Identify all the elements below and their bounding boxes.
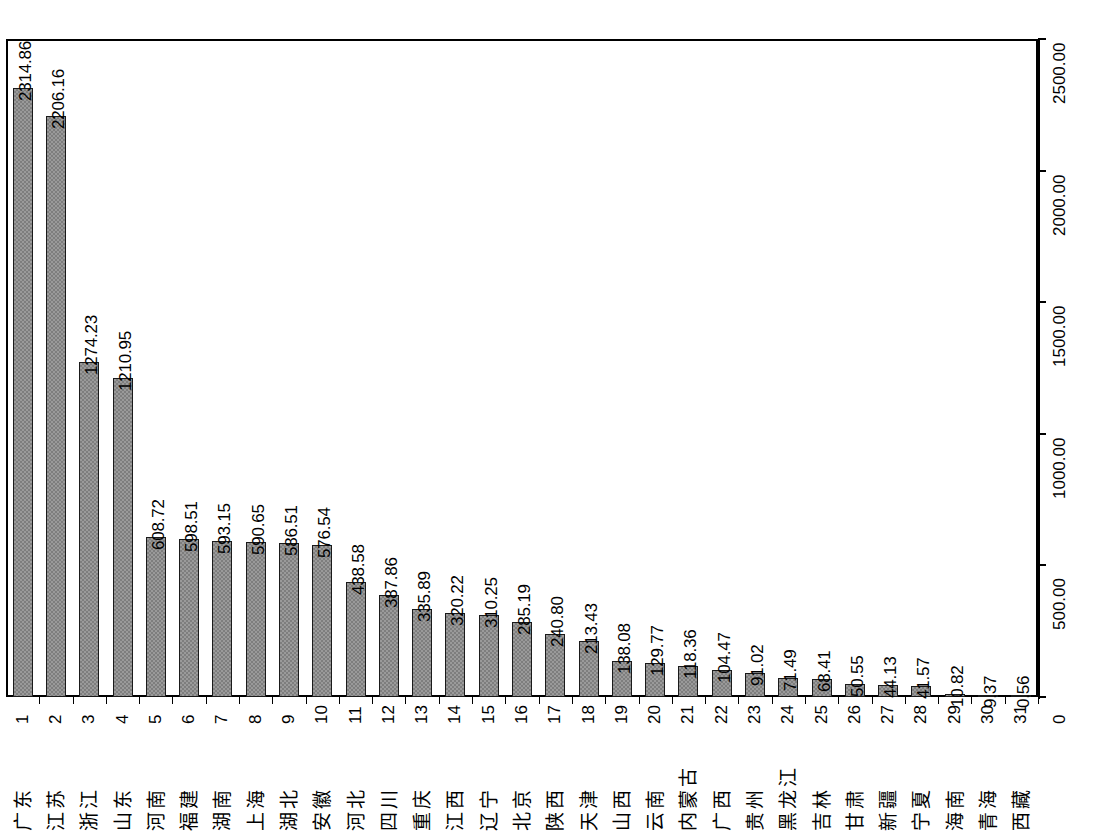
category-index-label: 3 (80, 715, 97, 724)
bar-value-label: 586.51 (283, 505, 300, 556)
bar-value-label: 213.43 (583, 603, 600, 654)
category-name-label: 西藏 (1012, 787, 1031, 831)
category-index-label: 25 (813, 705, 830, 724)
category-tick (971, 697, 972, 704)
category-tick (39, 697, 40, 704)
value-axis-label: 1500.00 (1051, 306, 1068, 367)
bar-value-label: 240.80 (549, 596, 566, 647)
category-index-label: 18 (580, 705, 597, 724)
bar-value-label: 10.82 (949, 666, 966, 708)
category-name-label: 陕西 (546, 787, 565, 831)
category-tick (905, 697, 906, 704)
category-tick (639, 697, 640, 704)
category-index-label: 13 (413, 705, 430, 724)
category-name-label: 宁夏 (912, 787, 931, 831)
category-name-label: 甘肃 (846, 787, 865, 831)
category-index-label: 1 (14, 715, 31, 724)
category-index-label: 23 (746, 705, 763, 724)
category-index-label: 11 (347, 706, 364, 724)
category-index-label: 2 (47, 715, 64, 724)
value-axis-tick (1038, 564, 1046, 566)
bar-value-label: 138.08 (616, 623, 633, 674)
category-tick (139, 697, 140, 704)
bar-value-label: 310.25 (483, 578, 500, 629)
category-index-label: 21 (679, 705, 696, 724)
category-tick (172, 697, 173, 704)
category-name-label: 黑龙江 (779, 765, 798, 831)
bar-value-label: 1274.23 (83, 315, 100, 375)
category-index-label: 26 (846, 705, 863, 724)
category-name-label: 湖北 (280, 787, 299, 831)
category-index-label: 15 (480, 705, 497, 724)
category-index-label: 12 (380, 705, 397, 724)
category-name-label: 海南 (946, 787, 965, 831)
category-name-label: 贵州 (746, 787, 765, 831)
category-name-label: 浙江 (80, 787, 99, 831)
category-name-label: 山西 (613, 787, 632, 831)
category-name-label: 广西 (713, 787, 732, 831)
bar-value-label: 593.15 (216, 503, 233, 554)
category-name-label: 重庆 (413, 787, 432, 831)
bar-value-label: 285.19 (516, 584, 533, 635)
category-tick (938, 697, 939, 704)
category-tick (872, 697, 873, 704)
bar-rect (146, 537, 166, 697)
value-axis-label: 500.00 (1051, 578, 1068, 630)
bar-value-label: 590.65 (250, 504, 267, 555)
bar-value-label: 129.77 (649, 625, 666, 676)
category-tick (439, 697, 440, 704)
category-tick (838, 697, 839, 704)
value-axis-line (1038, 39, 1040, 699)
bar-value-label: 104.47 (716, 632, 733, 683)
bar-value-label: 2314.86 (17, 41, 34, 101)
bar-rect (79, 362, 99, 697)
category-tick (73, 697, 74, 704)
category-index-label: 5 (147, 715, 164, 724)
value-axis-tick (1038, 301, 1046, 303)
category-name-label: 上海 (247, 787, 266, 831)
bar-value-label: 0.56 (1015, 676, 1032, 708)
category-index-label: 22 (713, 705, 730, 724)
bar-rect (312, 545, 332, 697)
category-tick (805, 697, 806, 704)
category-tick (738, 697, 739, 704)
bar-rect (379, 595, 399, 697)
bar-value-label: 91.02 (749, 644, 766, 686)
category-name-label: 河南 (147, 787, 166, 831)
bar-rect (46, 116, 66, 697)
bar-value-label: 598.51 (183, 502, 200, 553)
category-tick (1005, 697, 1006, 704)
category-name-label: 湖南 (213, 787, 232, 831)
bar-rect (13, 88, 33, 697)
category-tick (572, 697, 573, 704)
value-axis-label: 1000.00 (1051, 437, 1068, 498)
bar-value-label: 576.54 (316, 507, 333, 558)
category-index-label: 8 (247, 715, 264, 724)
category-index-label: 19 (613, 705, 630, 724)
category-index-label: 6 (180, 715, 197, 724)
category-index-label: 28 (912, 705, 929, 724)
bar-value-label: 1210.95 (117, 331, 134, 391)
category-name-label: 安徽 (313, 787, 332, 831)
bar-rect (246, 542, 266, 697)
category-axis-ticks (6, 697, 1038, 705)
bar-rect (346, 582, 366, 697)
category-name-label: 吉林 (813, 787, 832, 831)
bar-value-label: 9.37 (982, 675, 999, 707)
category-tick (405, 697, 406, 704)
bar-value-label: 320.22 (449, 575, 466, 626)
category-tick (505, 697, 506, 704)
category-tick (605, 697, 606, 704)
category-tick (772, 697, 773, 704)
value-axis-tick (1038, 433, 1046, 435)
bar-rect (212, 541, 232, 697)
category-index-label: 16 (513, 705, 530, 724)
category-index-label: 24 (779, 705, 796, 724)
category-index-label: 27 (879, 705, 896, 724)
category-tick (106, 697, 107, 704)
bar-value-label: 387.86 (383, 557, 400, 608)
category-tick (705, 697, 706, 704)
category-index-label: 14 (446, 705, 463, 724)
bar-value-label: 335.89 (416, 571, 433, 622)
